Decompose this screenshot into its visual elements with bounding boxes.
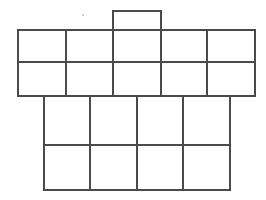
grid-cell-upper-band-r1c3 (113, 30, 161, 62)
grid-cell-upper-band-r2c2 (66, 62, 113, 96)
grid-cell-lower-band-r1c4 (183, 96, 230, 145)
grid-cell-lower-band-r2c3 (137, 145, 183, 190)
figure-canvas (0, 0, 266, 200)
grid-cell-upper-band-r1c1 (18, 30, 66, 62)
grid-cell-upper-band-r1c4 (161, 30, 207, 62)
grid-cell-lower-band-r1c1 (44, 96, 90, 145)
grid-cell-lower-band-r1c3 (137, 96, 183, 145)
grid-figure-svg (0, 0, 266, 200)
speck-mark-1 (82, 14, 85, 17)
grid-cell-upper-band-r1c2 (66, 30, 113, 62)
grid-cell-upper-band-r1c5 (207, 30, 255, 62)
grid-cell-upper-band-r2c3 (113, 62, 161, 96)
grid-cell-lower-band-r2c4 (183, 145, 230, 190)
grid-cell-lower-band-r1c2 (90, 96, 137, 145)
grid-cell-upper-band-r2c5 (207, 62, 255, 96)
cells-layer (18, 11, 255, 190)
marks-layer (82, 14, 85, 17)
cell-group-lower-band (44, 96, 230, 190)
grid-cell-lower-band-r2c1 (44, 145, 90, 190)
grid-cell-upper-band-r2c4 (161, 62, 207, 96)
grid-cell-upper-band-r2c1 (18, 62, 66, 96)
grid-cell-lower-band-r2c2 (90, 145, 137, 190)
cell-group-upper-band (18, 30, 255, 96)
